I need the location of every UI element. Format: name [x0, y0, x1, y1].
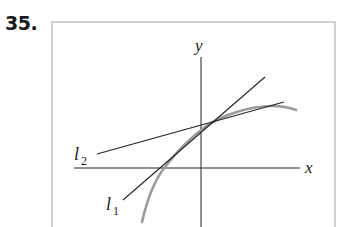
label-l2: l 2: [74, 144, 87, 168]
label-l1: l 1: [106, 194, 119, 218]
svg-text:l: l: [106, 194, 111, 214]
y-axis-label: y: [193, 36, 203, 55]
svg-text:l: l: [74, 144, 79, 164]
svg-text:2: 2: [81, 154, 87, 168]
svg-text:1: 1: [113, 204, 119, 218]
line-l2: [97, 102, 284, 154]
line-l1: [123, 77, 265, 200]
x-axis-label: x: [304, 158, 313, 177]
graph-diagram: y x l 2 l 1: [0, 0, 340, 227]
graph-frame: [52, 22, 335, 227]
